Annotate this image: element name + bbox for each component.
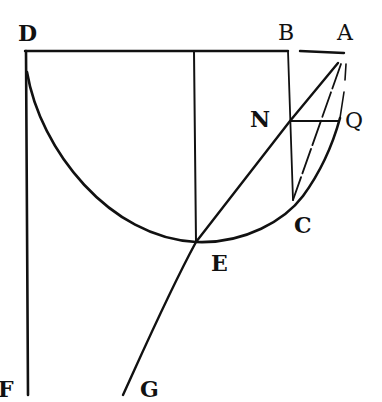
line-BC bbox=[288, 51, 293, 200]
label-F: F bbox=[0, 378, 14, 400]
label-G: G bbox=[140, 378, 159, 400]
label-D: D bbox=[18, 22, 37, 44]
geometric-diagram bbox=[0, 0, 382, 402]
label-E: E bbox=[211, 252, 228, 274]
line-DF bbox=[26, 51, 28, 395]
label-N: N bbox=[250, 108, 270, 130]
label-C: C bbox=[294, 214, 312, 236]
label-B: B bbox=[278, 22, 294, 44]
line-top-DA bbox=[25, 51, 344, 53]
line-AC bbox=[293, 64, 341, 200]
line-center-vertical bbox=[194, 51, 196, 242]
label-Q: Q bbox=[345, 110, 363, 132]
label-A: A bbox=[337, 22, 353, 44]
